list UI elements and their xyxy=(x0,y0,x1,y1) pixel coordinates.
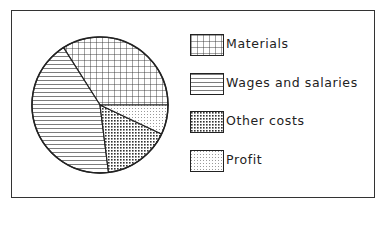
legend-label: Other costs xyxy=(226,113,305,129)
legend-label: Profit xyxy=(226,152,262,168)
legend-item-profit: Profit xyxy=(190,150,358,189)
legend-item-wages: Wages and salaries xyxy=(190,73,358,112)
swatch-dense-dots-icon xyxy=(190,111,224,133)
legend-label: Materials xyxy=(226,36,289,52)
swatch-hlines-icon xyxy=(190,73,224,95)
legend-label: Wages and salaries xyxy=(226,75,358,91)
swatch-light-dots-icon xyxy=(190,150,224,172)
legend: Materials Wages and salaries Other costs… xyxy=(190,34,358,188)
swatch-grid-icon xyxy=(190,34,224,56)
legend-item-materials: Materials xyxy=(190,34,358,73)
legend-item-other-costs: Other costs xyxy=(190,111,358,150)
